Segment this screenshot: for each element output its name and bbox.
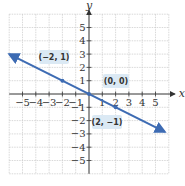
y-tick-label: 5 <box>79 22 85 33</box>
point-label: (0, 0) <box>104 77 128 86</box>
x-axis-label: x <box>179 87 185 100</box>
coordinate-plane: xy −5−4−3−2−112345−5−4−3−2−112345 (−2, 1… <box>0 0 185 186</box>
y-tick-label: −1 <box>71 102 86 113</box>
y-tick-label: 2 <box>79 62 85 73</box>
y-tick-label: 4 <box>79 35 85 46</box>
x-tick-label: 3 <box>126 97 132 108</box>
x-tick-label: 5 <box>152 97 158 108</box>
point-label: (−2, 1) <box>39 53 70 62</box>
x-tick-label: 4 <box>139 97 145 108</box>
data-point <box>114 105 118 109</box>
y-tick-label: −4 <box>71 142 86 153</box>
point-label: (2, −1) <box>92 118 123 127</box>
y-tick-label: −3 <box>71 128 86 139</box>
y-tick-label: −5 <box>71 155 86 166</box>
y-tick-label: −2 <box>71 115 86 126</box>
y-tick-label: 3 <box>79 49 85 60</box>
data-point <box>87 92 91 96</box>
y-tick-label: 1 <box>79 75 85 86</box>
y-axis-label: y <box>85 0 93 12</box>
data-point <box>60 79 64 83</box>
